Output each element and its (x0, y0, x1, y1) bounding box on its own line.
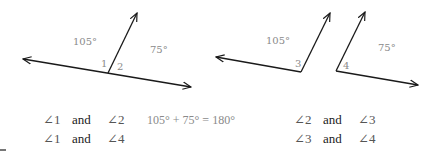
angle-2-label: 2 (117, 61, 123, 72)
measure-75-label: 75° (378, 42, 396, 53)
angle-4-figure: 75° 4 (336, 12, 418, 85)
angle-4-label: 4 (343, 60, 349, 71)
and-word: and (72, 113, 91, 126)
and-word: and (72, 132, 91, 145)
angle-2-ref: ∠2 (107, 113, 124, 126)
and-word: and (323, 113, 342, 126)
ray-up (336, 12, 365, 71)
angle-3-label: 3 (295, 58, 301, 69)
measure-75-label: 75° (150, 44, 168, 55)
ray-left (216, 57, 301, 72)
angle-4-ref: ∠4 (107, 132, 124, 145)
linear-pair-figure: 105° 75° 1 2 (23, 13, 191, 87)
sum-equation: 105° + 75° = 180° (147, 114, 235, 126)
measure-105-label: 105° (73, 36, 97, 47)
angle-2-ref: ∠2 (294, 113, 311, 126)
angle-4-ref: ∠4 (358, 132, 375, 145)
and-word: and (323, 132, 342, 145)
angle-3-ref: ∠3 (294, 132, 311, 145)
ray-right (336, 71, 418, 85)
angle-1-ref: ∠1 (43, 113, 60, 126)
angle-3-figure: 105° 3 (216, 13, 330, 72)
angle-diagrams: 105° 75° 1 2 105° 3 75° 4 (0, 0, 427, 110)
angle-3-ref: ∠3 (358, 113, 375, 126)
angle-1-ref: ∠1 (43, 132, 60, 145)
ray-up (301, 13, 330, 72)
edge-mark (0, 149, 6, 151)
measure-105-label: 105° (266, 35, 290, 46)
angle-1-label: 1 (101, 58, 107, 69)
